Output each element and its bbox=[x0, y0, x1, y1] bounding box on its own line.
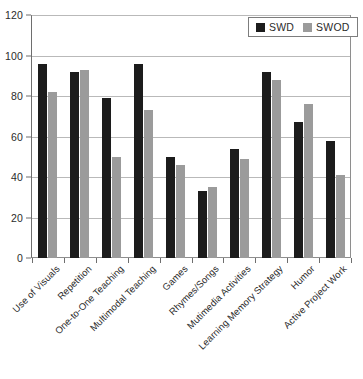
bar-swod bbox=[208, 187, 217, 258]
y-tick-label: 80 bbox=[11, 90, 23, 102]
x-axis-label: Humor bbox=[289, 263, 317, 291]
bar-group bbox=[287, 15, 319, 258]
y-tick-label: 0 bbox=[17, 252, 23, 264]
bar-chart: 020406080100120 Use of VisualsRepetition… bbox=[0, 0, 363, 379]
legend-item: SWOD bbox=[303, 21, 349, 33]
bar-group bbox=[96, 15, 128, 258]
legend-swatch-icon bbox=[256, 23, 265, 32]
legend-label: SWOD bbox=[316, 21, 349, 33]
bar-swd bbox=[326, 141, 335, 258]
bar-swod bbox=[144, 110, 153, 258]
y-tick-label: 100 bbox=[5, 50, 23, 62]
bar-swd bbox=[70, 72, 79, 258]
bar-swod bbox=[80, 70, 89, 258]
bar-group bbox=[192, 15, 224, 258]
bar-group bbox=[32, 15, 64, 258]
bar-swod bbox=[336, 175, 345, 258]
legend-item: SWD bbox=[256, 21, 294, 33]
legend-label: SWD bbox=[269, 21, 294, 33]
bar-swod bbox=[240, 159, 249, 258]
x-axis-label: Use of Visuals bbox=[10, 263, 62, 315]
bar-swd bbox=[230, 149, 239, 258]
x-axis-labels: Use of VisualsRepetitionOne-to-One Teach… bbox=[32, 263, 351, 379]
legend-swatch-icon bbox=[303, 23, 312, 32]
bar-swd bbox=[102, 98, 111, 258]
bar-group bbox=[128, 15, 160, 258]
y-axis: 020406080100120 bbox=[0, 15, 31, 258]
bar-group bbox=[160, 15, 192, 258]
bar-swod bbox=[48, 92, 57, 258]
x-axis-label: Active Project Work bbox=[281, 263, 349, 331]
bar-group bbox=[319, 15, 351, 258]
x-axis-label: Games bbox=[160, 263, 190, 293]
bar-swod bbox=[112, 157, 121, 258]
bar-swd bbox=[294, 122, 303, 258]
bar-swd bbox=[198, 191, 207, 258]
bar-swd bbox=[166, 157, 175, 258]
bar-swd bbox=[38, 64, 47, 258]
bar-group bbox=[223, 15, 255, 258]
bars-layer bbox=[32, 15, 351, 258]
bar-swod bbox=[176, 165, 185, 258]
y-tick-label: 20 bbox=[11, 212, 23, 224]
bar-group bbox=[255, 15, 287, 258]
x-tick-mark bbox=[351, 258, 352, 263]
bar-swd bbox=[262, 72, 271, 258]
bar-swod bbox=[272, 80, 281, 258]
bar-swd bbox=[134, 64, 143, 258]
y-tick-label: 40 bbox=[11, 171, 23, 183]
bar-group bbox=[64, 15, 96, 258]
bar-swod bbox=[304, 104, 313, 258]
chart-legend: SWDSWOD bbox=[248, 17, 358, 37]
y-tick-label: 60 bbox=[11, 131, 23, 143]
y-tick-label: 120 bbox=[5, 9, 23, 21]
